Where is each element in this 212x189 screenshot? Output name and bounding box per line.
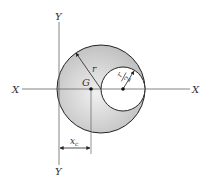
composite-area-diagram: r r 2 G xc X X Y Y: [0, 0, 212, 189]
xc-label: xc: [70, 136, 79, 147]
small-circle-center: [121, 87, 125, 91]
y-axis-bottom-label: Y: [55, 166, 63, 177]
big-radius-label: r: [92, 64, 97, 74]
centroid-label: G: [82, 77, 90, 88]
x-axis-right-label: X: [191, 84, 200, 95]
y-axis-top-label: Y: [55, 11, 63, 22]
x-axis-left-label: X: [11, 84, 20, 95]
